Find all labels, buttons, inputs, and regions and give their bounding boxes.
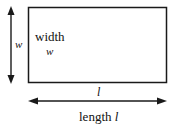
length-caption: length l [79,110,118,123]
vertical-dimension-label: w [15,39,22,50]
rectangle-width-variable: w [46,46,53,57]
length-caption-word: length [79,109,112,124]
horizontal-dimension-variable: l [97,86,100,98]
length-caption-variable: l [115,109,119,124]
rectangle-width-label: width [35,30,65,43]
vertical-double-arrow [8,6,15,84]
